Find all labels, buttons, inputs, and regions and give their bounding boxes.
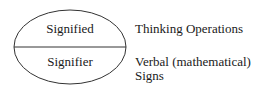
verbal-signs-annotation: Verbal (mathematical) Signs	[135, 55, 251, 83]
signified-label: Signified	[14, 22, 126, 36]
thinking-operations-annotation: Thinking Operations	[135, 22, 243, 36]
signifier-label: Signifier	[14, 55, 126, 69]
verbal-signs-line-2: Signs	[135, 69, 251, 83]
verbal-signs-line-1: Verbal (mathematical)	[135, 55, 251, 69]
